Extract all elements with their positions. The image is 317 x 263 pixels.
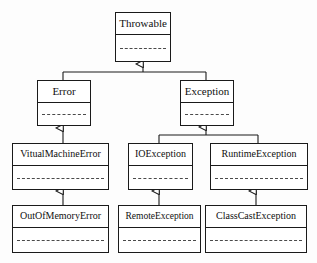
uml-class-io-exception[interactable]: IOException [128, 143, 193, 190]
uml-class-name: ClassCastException [206, 206, 306, 228]
uml-class-name: RuntimeException [211, 144, 307, 166]
uml-class-body [211, 166, 307, 189]
uml-class-body [181, 103, 233, 125]
uml-class-body [13, 166, 108, 189]
uml-class-name: OutOfMemoryError [13, 206, 108, 228]
uml-class-name: VitualMachineError [13, 144, 108, 166]
uml-class-vitual-machine-error[interactable]: VitualMachineError [12, 143, 109, 190]
uml-class-name: Throwable [116, 13, 170, 35]
uml-class-body [116, 35, 170, 61]
uml-class-name: Error [38, 81, 90, 103]
uml-class-remote-exception[interactable]: RemoteException [118, 205, 201, 253]
uml-class-body [38, 103, 90, 125]
uml-class-name: RemoteException [119, 206, 200, 228]
uml-class-body [13, 228, 108, 252]
uml-diagram-canvas: Throwable Error Exception VitualMachineE… [0, 0, 317, 263]
uml-class-class-cast-exception[interactable]: ClassCastException [205, 205, 307, 253]
uml-class-name: IOException [129, 144, 192, 166]
uml-class-error[interactable]: Error [37, 80, 91, 126]
uml-class-throwable[interactable]: Throwable [115, 12, 171, 62]
uml-class-runtime-exception[interactable]: RuntimeException [210, 143, 308, 190]
uml-class-name: Exception [181, 81, 233, 103]
uml-class-body [129, 166, 192, 189]
uml-class-body [206, 228, 306, 252]
uml-class-out-of-memory-error[interactable]: OutOfMemoryError [12, 205, 109, 253]
uml-class-exception[interactable]: Exception [180, 80, 234, 126]
uml-class-body [119, 228, 200, 252]
